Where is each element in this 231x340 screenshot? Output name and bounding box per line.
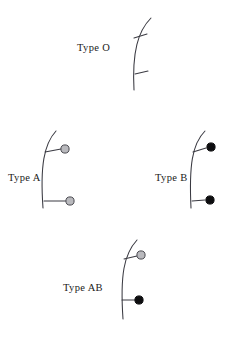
label-type-a: Type A [8,172,41,183]
antigen-b-head-icon-2 [206,196,214,204]
label-type-b: Type B [155,172,188,183]
antigen-b-head-icon-1 [207,143,215,151]
antigen-b-head-icon-3 [135,296,143,304]
diagram-background [0,0,231,340]
antigen-a-head-icon-2 [66,197,74,205]
blood-type-diagram-container: Type O Type A Type B Type AB [0,0,231,340]
antigen-a-head-icon-1 [61,145,69,153]
label-type-o: Type O [77,42,110,53]
label-type-ab: Type AB [63,282,103,293]
blood-type-diagram: Type O Type A Type B Type AB [0,0,231,340]
antigen-a-head-icon-3 [137,251,145,259]
